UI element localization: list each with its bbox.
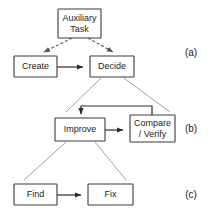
- node-decide-label: Decide: [98, 61, 126, 71]
- edge-auxiliary-to-create: [44, 38, 72, 52]
- node-auxiliary-task-label-line1: Auxiliary: [62, 13, 97, 23]
- node-find-label: Find: [27, 189, 45, 199]
- node-create-label: Create: [22, 61, 49, 71]
- node-compare-verify-label-line1: Compare: [134, 118, 171, 128]
- group-label-a: (a): [185, 47, 197, 58]
- node-compare-verify-label-line2: / Verify: [139, 129, 167, 139]
- group-label-b: (b): [185, 123, 197, 134]
- node-auxiliary-task-label-line2: Task: [70, 24, 89, 34]
- node-fix-label: Fix: [105, 189, 117, 199]
- node-improve-label: Improve: [64, 124, 97, 134]
- expansion-improve-to-group-c: [24, 142, 126, 180]
- group-label-c: (c): [185, 189, 197, 200]
- diagram-canvas: Auxiliary Task Create Decide Improve Com…: [0, 0, 213, 223]
- flowchart-diagram: Auxiliary Task Create Decide Improve Com…: [0, 0, 213, 223]
- edge-compare-to-improve-feedback: [81, 106, 152, 115]
- edge-auxiliary-to-decide: [88, 38, 113, 52]
